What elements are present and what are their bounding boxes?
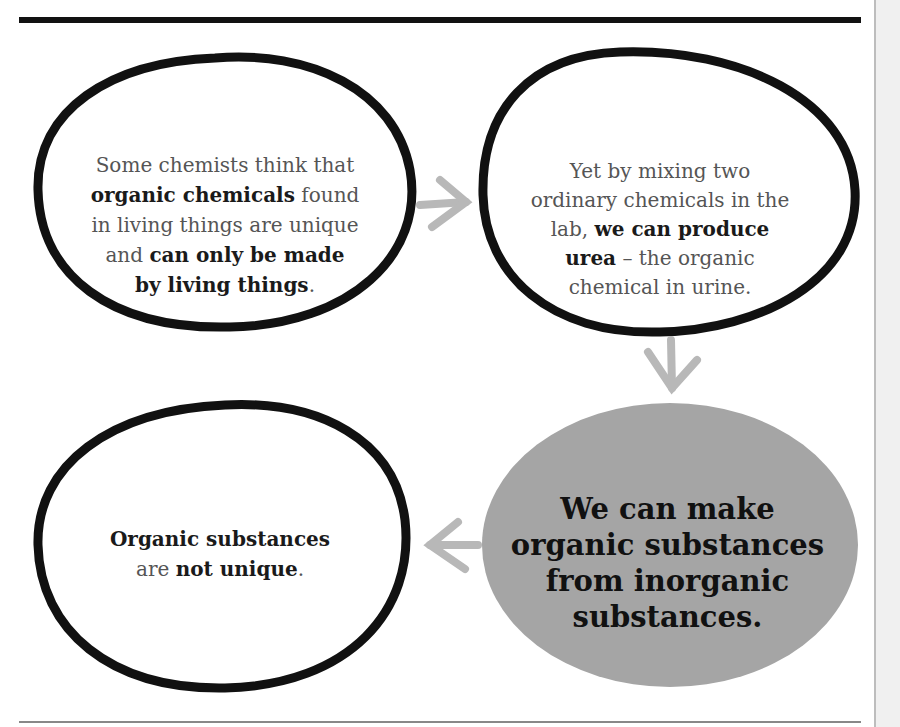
text-run-bold: not unique (176, 557, 298, 581)
arrow-right-icon (420, 180, 466, 227)
text-run-bold: urea (565, 246, 616, 270)
text-run-bold: We can make (485, 491, 850, 527)
text-run-bold: organic chemicals (91, 183, 295, 207)
text-run: ordinary chemicals in the (531, 188, 790, 212)
text-run-bold: by living things (135, 273, 309, 297)
text-run: Some chemists think that (96, 153, 355, 177)
conclusion-node-text: Organic substances are not unique. (70, 524, 370, 584)
text-run-bold: substances. (485, 599, 850, 635)
text-run: lab, (551, 217, 595, 241)
text-run: and (105, 243, 149, 267)
text-run: chemical in urine. (569, 275, 752, 299)
text-run-bold: Organic substances (110, 527, 330, 551)
arrow-down-icon (648, 340, 697, 388)
belief-node-text: Some chemists think that organic chemica… (75, 150, 375, 300)
result-node-text: We can make organic substances from inor… (485, 491, 850, 635)
text-run-bold: organic substances (485, 527, 850, 563)
text-run-bold: from inorganic (485, 563, 850, 599)
text-run: – the organic (616, 246, 755, 270)
arrow-left-icon (430, 522, 478, 569)
text-run: Yet by mixing two (570, 159, 750, 183)
text-run: are (136, 557, 176, 581)
experiment-node-text: Yet by mixing two ordinary chemicals in … (510, 157, 810, 302)
text-run: . (298, 557, 304, 581)
text-run: . (309, 273, 315, 297)
text-run: in living things are unique (91, 213, 358, 237)
text-run-bold: we can produce (595, 217, 770, 241)
text-run: found (295, 183, 359, 207)
text-run-bold: can only be made (149, 243, 344, 267)
